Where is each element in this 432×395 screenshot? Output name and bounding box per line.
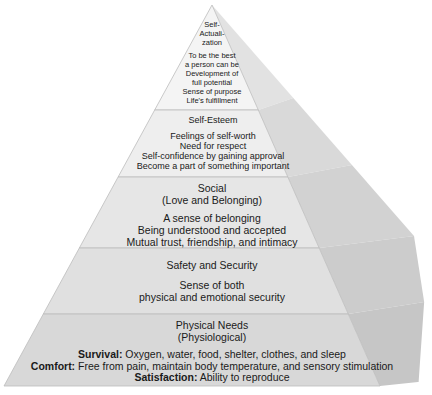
tier-self-actualization-item: Life's fulfillment (172, 96, 252, 105)
tier-physical: Physical Needs (Physiological) Survival:… (0, 320, 424, 384)
satisfaction-label: Satisfaction: (134, 371, 197, 383)
survival-text: Oxygen, water, food, shelter, clothes, a… (122, 348, 346, 360)
tier-self-actualization-item: To be the best (172, 51, 252, 60)
tier-social-item: A sense of belonging (80, 212, 344, 224)
tier-self-actualization-title-3: zation (172, 38, 252, 47)
tier-self-esteem-item: Self-confidence by gaining approval (120, 151, 306, 161)
tier-self-esteem-item: Become a part of something important (120, 161, 306, 171)
survival-label: Survival: (78, 348, 122, 360)
tier-social-item: Mutual trust, friendship, and intimacy (80, 236, 344, 248)
tier-self-actualization: Self- Actuali- zation To be the best a p… (172, 20, 252, 105)
tier-safety-item: physical and emotional security (60, 291, 364, 303)
tier-social: Social (Love and Belonging) A sense of b… (80, 182, 344, 248)
tier-social-title-1: Social (80, 182, 344, 194)
tier-social-title-2: (Love and Belonging) (80, 194, 344, 206)
tier-physical-title-2: (Physiological) (0, 332, 424, 344)
tier-physical-title-1: Physical Needs (0, 320, 424, 332)
tier-self-actualization-title-2: Actuali- (172, 29, 252, 38)
tier-self-actualization-item: Development of (172, 69, 252, 78)
tier-self-actualization-item: a person can be (172, 60, 252, 69)
tier-self-esteem-title: Self-Esteem (120, 115, 306, 125)
comfort-label: Comfort: (31, 360, 75, 372)
tier-self-actualization-item: full potential (172, 78, 252, 87)
tier-social-item: Being understood and accepted (80, 224, 344, 236)
tier-self-actualization-item: Sense of purpose (172, 87, 252, 96)
tier-self-actualization-title-1: Self- (172, 20, 252, 29)
tier-safety-item: Sense of both (60, 279, 364, 291)
tier-physical-item-satisfaction: Satisfaction: Ability to reproduce (0, 372, 424, 384)
tier-self-esteem: Self-Esteem Feelings of self-worth Need … (120, 115, 306, 171)
tier-self-esteem-item: Feelings of self-worth (120, 131, 306, 141)
tier-self-esteem-item: Need for respect (120, 141, 306, 151)
comfort-text: Free from pain, maintain body temperatur… (75, 360, 393, 372)
satisfaction-text: Ability to reproduce (197, 371, 289, 383)
tier-safety: Safety and Security Sense of both physic… (60, 259, 364, 303)
tier-safety-title: Safety and Security (60, 259, 364, 271)
